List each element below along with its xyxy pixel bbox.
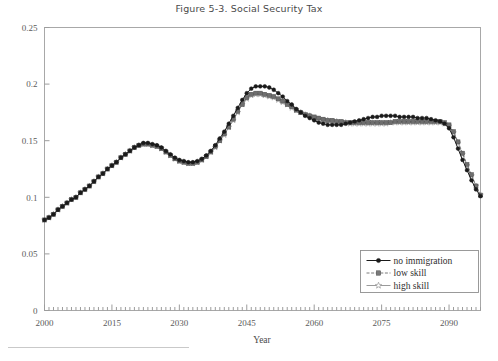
series-marker — [474, 187, 478, 191]
series-marker — [371, 121, 375, 125]
series-marker — [263, 92, 267, 96]
series-marker — [443, 122, 447, 126]
series-marker — [375, 121, 379, 125]
figure-root: Figure 5-3. Social Security Tax 00.050.1… — [0, 0, 498, 361]
series-marker — [317, 121, 321, 125]
series-marker — [52, 212, 56, 216]
series-marker — [272, 95, 276, 99]
x-tick-label: 2060 — [305, 318, 324, 328]
y-tick-label: 0.05 — [22, 249, 38, 259]
series-marker — [195, 159, 199, 163]
series-marker — [407, 119, 411, 123]
series-marker — [461, 158, 465, 162]
series-marker — [362, 117, 366, 121]
series-marker — [416, 116, 420, 120]
series-marker — [308, 116, 312, 120]
series-marker — [132, 146, 136, 150]
series-marker — [447, 126, 451, 130]
legend-label: no immigration — [394, 256, 453, 266]
series-marker — [281, 95, 285, 99]
x-tick-label: 2075 — [373, 318, 392, 328]
series-marker — [159, 146, 163, 150]
legend-label: high skill — [394, 281, 430, 291]
series-marker — [222, 130, 226, 134]
series-line — [45, 93, 481, 220]
data-series-group — [42, 84, 484, 222]
series-marker — [366, 116, 370, 120]
series-marker — [479, 194, 483, 198]
series-marker — [168, 152, 172, 156]
series-marker — [335, 123, 339, 127]
series-marker — [456, 147, 460, 151]
series-marker — [438, 120, 442, 124]
series-marker — [456, 140, 460, 144]
series-marker — [79, 191, 83, 195]
x-tick-label: 2030 — [170, 318, 189, 328]
series-marker — [173, 156, 177, 160]
series-marker — [182, 159, 186, 163]
series-marker — [380, 121, 384, 125]
series-marker — [461, 151, 465, 155]
series-marker — [141, 141, 145, 145]
series-marker — [393, 114, 397, 118]
series-marker — [240, 98, 244, 102]
y-axis-ticks: 00.050.10.150.20.25 — [22, 23, 50, 316]
series-marker — [321, 122, 325, 126]
series-marker — [299, 111, 303, 115]
series-marker — [47, 216, 51, 220]
series-marker — [177, 158, 181, 162]
chart-legend[interactable]: no immigrationlow skillhigh skill — [361, 251, 479, 293]
series-marker — [393, 119, 397, 123]
series-marker — [402, 115, 406, 119]
x-tick-label: 2000 — [36, 318, 55, 328]
x-axis-ticks: 2000201520302045206020752090 — [36, 305, 481, 328]
series-marker — [407, 115, 411, 119]
series-marker — [348, 121, 352, 125]
series-marker — [389, 121, 393, 125]
series-marker — [110, 164, 114, 168]
series-marker — [267, 93, 271, 97]
series-marker — [61, 204, 65, 208]
series-marker — [263, 84, 267, 88]
series-marker — [155, 143, 159, 147]
series-marker — [254, 84, 258, 88]
series-marker — [245, 96, 249, 100]
series-marker — [204, 154, 208, 158]
series-marker — [106, 167, 110, 171]
series-marker — [249, 87, 253, 91]
series-marker — [97, 175, 101, 179]
y-tick-label: 0 — [33, 306, 38, 316]
series-marker — [398, 115, 402, 119]
series-marker — [258, 84, 262, 88]
chart-plot-area: 00.050.10.150.20.25 20002015203020452060… — [0, 0, 498, 361]
series-marker — [281, 99, 285, 103]
series-marker — [65, 201, 69, 205]
series-marker — [402, 119, 406, 123]
series-marker — [398, 119, 402, 123]
series-marker — [312, 118, 316, 122]
series-marker — [186, 160, 190, 164]
series-marker — [74, 195, 78, 199]
series-marker — [83, 187, 87, 191]
series-marker — [344, 122, 348, 126]
legend-marker — [376, 258, 380, 262]
series-marker — [452, 130, 456, 134]
series-marker — [326, 123, 330, 127]
series-marker — [218, 137, 222, 141]
series-marker — [434, 118, 438, 122]
series-marker — [366, 121, 370, 125]
series-marker — [254, 91, 258, 95]
x-tick-label: 2015 — [103, 318, 122, 328]
series-marker — [227, 122, 231, 126]
series-marker — [272, 88, 276, 92]
series-marker — [128, 149, 132, 153]
series-marker — [191, 160, 195, 164]
series-marker — [200, 157, 204, 161]
series-marker — [375, 115, 379, 119]
series-marker — [92, 180, 96, 184]
series-marker — [411, 119, 415, 123]
series-marker — [245, 91, 249, 95]
series-marker — [164, 149, 168, 153]
series-marker — [384, 114, 388, 118]
series-marker — [389, 114, 393, 118]
